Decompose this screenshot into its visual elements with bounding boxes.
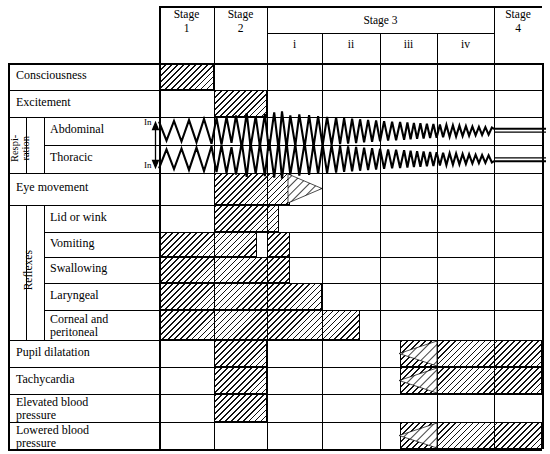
bar-eye-movement	[214, 173, 290, 205]
grid-hline	[44, 145, 542, 146]
bar-consciousness	[159, 63, 214, 90]
bar-tachycardia	[214, 367, 267, 394]
bar-pupil-dilatation-2	[400, 340, 542, 367]
group-label-respiration: Respi-ration	[9, 120, 32, 176]
grid-hline	[44, 310, 542, 311]
bar-laryngeal	[159, 283, 322, 310]
grid-vline	[494, 6, 495, 449]
grid-hline	[44, 257, 542, 258]
respiration-in-top: In	[144, 117, 152, 127]
bar-vomiting-2	[267, 232, 290, 257]
row-label-laryngeal: Laryngeal	[50, 289, 99, 302]
grid-vline	[214, 6, 215, 449]
header-stage-2: Stage2	[214, 8, 267, 35]
header-stage-1: Stage1	[159, 8, 214, 35]
header-stage-3: Stage 3	[267, 14, 494, 28]
row-label-consciousness: Consciousness	[16, 69, 87, 82]
row-label-pupil-dilatation: Pupil dilatation	[16, 346, 90, 359]
bar-tachycardia-2	[400, 367, 542, 394]
guedel-anaesthesia-chart: ConsciousnessExcitementAbdominalThoracic…	[0, 0, 550, 454]
grid-hline	[8, 367, 542, 368]
grid-hline	[8, 173, 542, 174]
row-label-excitement: Excitement	[16, 96, 71, 109]
grid-vline	[437, 33, 438, 449]
grid-vline	[267, 6, 268, 449]
grid-hline	[8, 205, 542, 206]
row-label-corneal-peritoneal: Corneal andperitoneal	[50, 313, 108, 340]
bar-lowered-bp	[400, 422, 542, 449]
grid-hline	[8, 90, 542, 91]
grid-vline	[322, 33, 323, 449]
bar-pupil-dilatation	[214, 340, 267, 367]
grid-vline	[542, 63, 544, 449]
grid-hline	[8, 340, 542, 341]
bar-swallowing	[159, 257, 290, 283]
grid-hline	[44, 283, 542, 284]
grid-vline	[159, 6, 161, 449]
eye-movement-taper	[288, 174, 322, 203]
header-plane-iii: iii	[380, 38, 437, 52]
bar-excitement	[214, 90, 267, 117]
row-label-elevated-bp: Elevated bloodpressure	[16, 396, 88, 423]
row-label-abdominal: Abdominal	[50, 123, 104, 136]
bar-lid-or-wink	[214, 205, 279, 232]
header-plane-iv: iv	[437, 38, 494, 52]
header-plane-ii: ii	[322, 38, 380, 52]
row-label-tachycardia: Tachycardia	[16, 373, 74, 386]
row-label-lid-or-wink: Lid or wink	[50, 211, 107, 224]
grid-hline	[8, 117, 542, 118]
header-stage-4: Stage4	[494, 8, 542, 35]
grid-vline	[44, 117, 45, 173]
group-label-reflexes: Reflexes	[22, 230, 34, 310]
row-label-thoracic: Thoracic	[50, 151, 93, 164]
respiration-in-bottom: In	[144, 160, 152, 170]
grid-hline	[44, 232, 542, 233]
grid-vline	[44, 205, 45, 340]
row-label-swallowing: Swallowing	[50, 262, 107, 275]
bar-vomiting	[159, 232, 257, 257]
row-label-eye-movement: Eye movement	[16, 181, 88, 194]
header-plane-i: i	[267, 38, 322, 52]
bar-corneal-peritoneal	[159, 310, 360, 340]
grid-vline	[380, 33, 381, 449]
row-label-lowered-bp: Lowered bloodpressure	[16, 424, 89, 451]
row-label-vomiting: Vomiting	[50, 237, 94, 250]
bar-elevated-bp	[214, 394, 267, 422]
grid-hline	[8, 63, 542, 65]
